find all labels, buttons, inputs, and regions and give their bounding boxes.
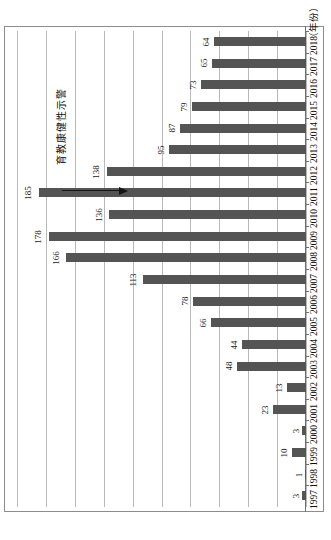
bar-row: 44: [17, 334, 306, 356]
bar: [109, 210, 306, 219]
bar-value-label: 113: [129, 273, 138, 286]
category-label: 1999: [310, 447, 320, 466]
category-label: 2013: [310, 144, 320, 163]
category-label: 2003: [310, 360, 320, 379]
bar-row: 178: [17, 226, 306, 248]
category-label: 1997: [310, 490, 320, 509]
bar: [107, 167, 306, 176]
bar-value-label: 65: [200, 59, 209, 68]
bar-row: 166: [17, 247, 306, 269]
category-label: 2017: [310, 57, 320, 76]
bar: [242, 340, 306, 349]
bar-row: 185: [17, 182, 306, 204]
bar-row: 48: [17, 356, 306, 378]
category-label: 2010: [310, 209, 320, 228]
bar: [292, 448, 306, 457]
bar-row: 66: [17, 312, 306, 334]
bar-value-label: 44: [230, 340, 239, 349]
bar-row: 1: [17, 464, 306, 486]
bar-row: 64: [17, 31, 306, 53]
bar-value-label: 87: [168, 124, 177, 133]
bar-value-label: 178: [35, 230, 44, 244]
chart-figure: 3110323134844667811316617813618513895877…: [0, 0, 331, 540]
annotation-label: 警示性健康教育: [54, 88, 70, 165]
arrow-head: [119, 187, 128, 195]
bar-value-label: 78: [181, 297, 190, 306]
bar: [212, 59, 306, 68]
bar-value-label: 79: [180, 102, 189, 111]
bar-row: 78: [17, 291, 306, 313]
bar: [287, 383, 306, 392]
category-label: 1998: [310, 469, 320, 488]
bar-row: 13: [17, 377, 306, 399]
bar-row: 136: [17, 204, 306, 226]
bar-value-label: 64: [202, 37, 211, 46]
bar: [237, 362, 306, 371]
bar: [214, 37, 306, 46]
arrow-shaft: [62, 190, 122, 191]
bar-row: 10: [17, 442, 306, 464]
bar: [143, 275, 306, 284]
bar-row: 23: [17, 399, 306, 421]
bar-value-label: 66: [199, 319, 208, 328]
category-label: 2006: [310, 295, 320, 314]
category-label: 2012: [310, 166, 320, 185]
bar-value-label: 166: [52, 251, 61, 265]
bar: [192, 102, 306, 111]
bar-value-label: 23: [261, 405, 270, 414]
bar-value-label: 136: [95, 208, 104, 222]
bar-row: 113: [17, 269, 306, 291]
category-label: 2014: [310, 122, 320, 141]
category-label: 2004: [310, 339, 320, 358]
bar-value-label: 3: [292, 494, 301, 499]
bar: [211, 318, 306, 327]
bar-value-label: 95: [157, 145, 166, 154]
category-label: 2005: [310, 317, 320, 336]
bar-row: 3: [17, 485, 306, 507]
bar: [49, 232, 306, 241]
bar-value-label: 48: [225, 362, 234, 371]
bar-row: 65: [17, 53, 306, 75]
category-label: 2001: [310, 404, 320, 423]
category-label: 2009: [310, 231, 320, 250]
bar-value-label: 138: [92, 165, 101, 179]
bar: [180, 124, 306, 133]
bar: [201, 80, 306, 89]
bar-value-label: 73: [189, 81, 198, 90]
category-label: 2015: [310, 101, 320, 120]
axis-title: （年份）: [310, 2, 320, 42]
bar-value-label: 13: [275, 383, 284, 392]
annotation-arrow-icon: [62, 186, 128, 195]
category-label: 2002: [310, 382, 320, 401]
category-label: 2007: [310, 274, 320, 293]
bar-value-label: 10: [280, 448, 289, 457]
bar-value-label: 1: [295, 472, 304, 477]
bar-row: 3: [17, 420, 306, 442]
bar: [273, 405, 306, 414]
category-label: 2011: [310, 188, 320, 207]
annotation-char: 育: [57, 152, 68, 168]
category-label: 2000: [310, 425, 320, 444]
category-label: 2008: [310, 252, 320, 271]
bar-value-label: 185: [24, 187, 33, 201]
bar: [66, 253, 306, 262]
category-axis: 1997199819992000200120022003200420052006…: [306, 31, 324, 507]
category-label: 2016: [310, 79, 320, 98]
bar: [193, 297, 306, 306]
bar: [169, 145, 306, 154]
bar-value-label: 3: [292, 429, 301, 434]
